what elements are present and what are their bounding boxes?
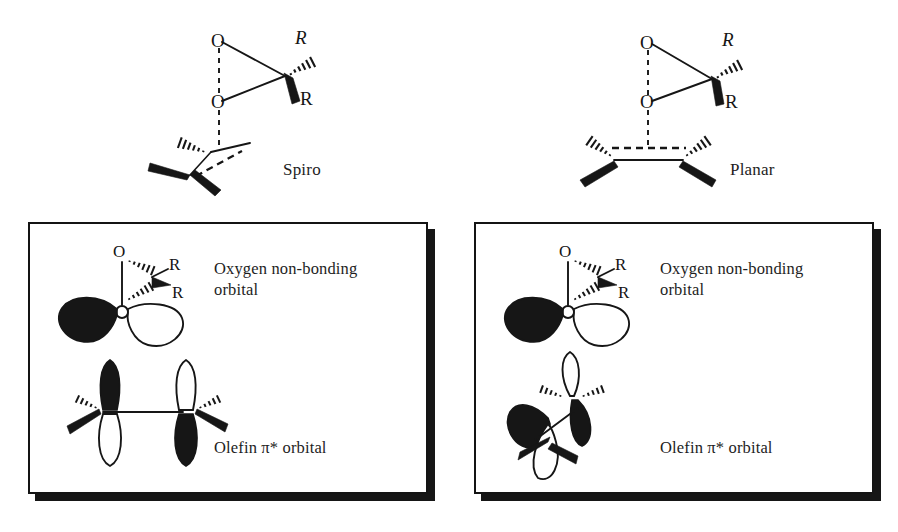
figure-root: .solid { stroke:#161616; stroke-width:1.… [0, 0, 898, 532]
planar-olefin-orbital-label: Olefin π* orbital [660, 437, 850, 458]
planar-panel-r-lower-label: R [618, 284, 629, 301]
spiro-olefin-orbital-label: Olefin π* orbital [214, 437, 404, 458]
planar-panel-oxygen-label: O [559, 243, 571, 260]
spiro-panel-r-lower-label: R [172, 284, 183, 301]
planar-panel-r-upper-label: R [615, 256, 626, 273]
planar-orbital-diagram [505, 257, 629, 479]
spiro-panel-r-upper-label: R [169, 256, 180, 273]
spiro-panel-oxygen-label: O [113, 243, 125, 260]
planar-oxygen-orbital-label: Oxygen non-bonding orbital [660, 258, 860, 301]
spiro-oxygen-orbital-label: Oxygen non-bonding orbital [214, 258, 414, 301]
spiro-orbital-diagram [59, 257, 228, 466]
